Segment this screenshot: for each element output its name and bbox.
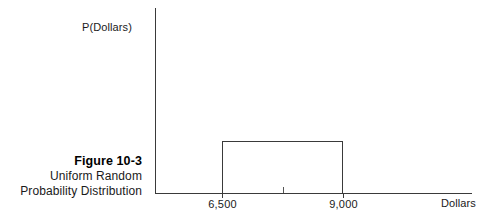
x-axis-label: Dollars	[441, 197, 476, 209]
x-axis-line	[155, 193, 472, 194]
uniform-distribution-plot: P(Dollars) 6,500 9,000 Dollars	[0, 0, 478, 217]
figure-page: Figure 10-3 Uniform Random Probability D…	[0, 0, 478, 217]
y-axis-line	[155, 8, 156, 194]
x-tick-label-9000: 9,000	[323, 198, 364, 210]
uniform-density-rectangle	[222, 141, 343, 193]
x-tick-label-6500: 6,500	[202, 198, 243, 210]
y-axis-label: P(Dollars)	[82, 21, 132, 33]
x-tick-midpoint	[283, 187, 284, 193]
